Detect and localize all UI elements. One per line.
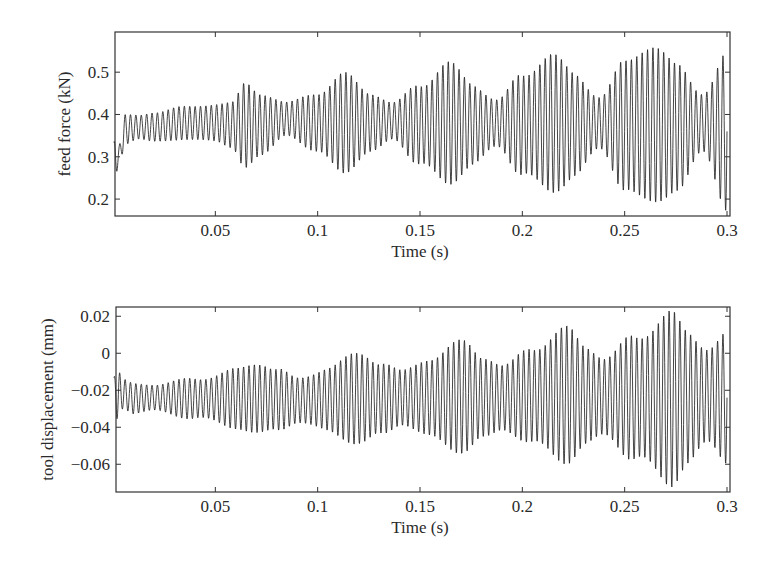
y-tick-label: −0.04	[71, 418, 111, 437]
y-tick-label: 0.2	[88, 190, 109, 209]
feed-force-plot: 0.050.10.150.20.250.3 0.20.30.40.5 Time …	[55, 32, 738, 261]
x-tick-label: 0.3	[716, 221, 737, 240]
x-tick-label: 0.2	[512, 221, 533, 240]
x-tick-label: 0.15	[405, 497, 435, 516]
tool-displacement-x-axis-title: Time (s)	[391, 518, 448, 537]
x-tick-label: 0.1	[307, 221, 328, 240]
feed-force-signal-line	[114, 48, 727, 211]
figure: 0.050.10.150.20.250.3 0.20.30.40.5 Time …	[0, 0, 778, 563]
x-tick-label: 0.1	[307, 497, 328, 516]
y-tick-label: −0.02	[71, 381, 110, 400]
x-tick-label: 0.2	[512, 497, 533, 516]
x-tick-label: 0.3	[716, 497, 737, 516]
feed-force-y-axis-title: feed force (kN)	[55, 72, 74, 177]
x-tick-label: 0.15	[405, 221, 435, 240]
tool-displacement-signal-line	[114, 311, 727, 487]
y-tick-label: 0	[102, 344, 111, 363]
x-tick-label: 0.25	[610, 497, 640, 516]
feed-force-x-axis-title: Time (s)	[391, 242, 448, 261]
tool-displacement-y-axis-title: tool displacement (mm)	[38, 318, 57, 480]
x-tick-label: 0.25	[610, 221, 640, 240]
x-tick-label: 0.05	[200, 497, 230, 516]
y-tick-label: 0.02	[80, 307, 110, 326]
y-tick-label: 0.4	[88, 105, 110, 124]
tool-displacement-plot: 0.050.10.150.20.250.3 −0.06−0.04−0.0200.…	[38, 307, 738, 537]
y-tick-label: 0.3	[88, 148, 109, 167]
y-tick-label: −0.06	[71, 455, 110, 474]
y-tick-label: 0.5	[88, 63, 109, 82]
x-tick-label: 0.05	[200, 221, 230, 240]
